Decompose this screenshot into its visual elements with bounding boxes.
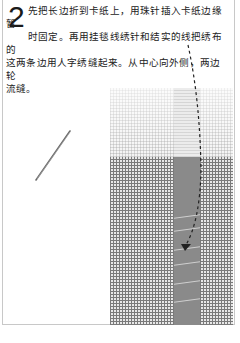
seam-strip-upper: [174, 88, 200, 157]
cross-stitch: [174, 227, 200, 232]
instruction-line-2: 时固定。再用挂毯线绣针和结实的线把绣布的: [6, 30, 230, 56]
seam-strip: [174, 88, 200, 325]
instruction-line-1: 先把长边折到卡纸上，用珠针插入卡纸边缘暂: [6, 4, 230, 30]
instruction-line-3: 这两条边用人字绣缝起来。从中心向外侧，两边轮: [6, 56, 230, 82]
cross-stitch: [174, 280, 200, 285]
canvas-top-section: [110, 88, 233, 157]
canvas-fabric-illustration: [110, 88, 233, 325]
instruction-text: 先把长边折到卡纸上，用珠针插入卡纸边缘暂 时固定。再用挂毯线绣针和结实的线把绣布…: [6, 4, 230, 95]
canvas-bottom-section: [110, 157, 233, 325]
cross-stitch: [174, 246, 200, 251]
cross-stitch: [174, 298, 200, 303]
cross-stitch: [174, 214, 200, 219]
cross-stitch: [174, 261, 200, 266]
